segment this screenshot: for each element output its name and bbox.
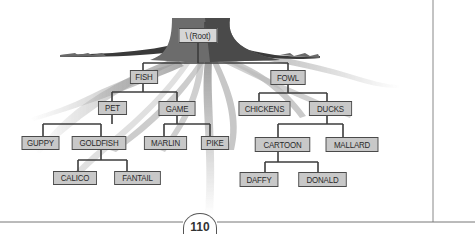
node-donald: DONALD — [298, 172, 346, 187]
node-pet: PET — [98, 101, 127, 115]
node-root: \ (Root) — [179, 28, 218, 43]
node-daffy: DAFFY — [240, 172, 279, 187]
node-marlin: MARLIN — [144, 136, 187, 150]
node-chickens: CHICKENS — [239, 101, 291, 116]
node-game: GAME — [159, 101, 196, 116]
node-calico: CALICO — [53, 171, 97, 185]
node-fish: FISH — [130, 70, 158, 84]
node-fantail: FANTAIL — [114, 171, 161, 185]
node-guppy: GUPPY — [22, 136, 60, 150]
node-cartoon: CARTOON — [255, 137, 310, 152]
roots-faint — [30, 50, 400, 215]
node-goldfish: GOLDFISH — [72, 136, 127, 150]
node-fowl: FOWL — [270, 70, 305, 85]
node-mallard: MALLARD — [326, 137, 379, 152]
node-pike: PIKE — [201, 136, 229, 150]
node-ducks: DUCKS — [309, 101, 352, 116]
tree-roots-illustration — [0, 0, 475, 234]
